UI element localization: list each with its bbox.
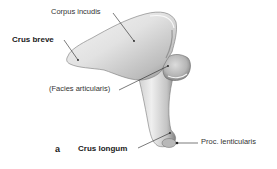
label-corpus-incudis: Corpus incudis [51,8,101,16]
label-facies-articularis: (Facies articularis) [49,85,110,93]
label-crus-longum: Crus longum [78,145,127,153]
label-crus-breve: Crus breve [12,36,54,44]
label-proc-lenticularis: Proc. lenticularis [201,138,256,146]
incus-diagram: Corpus incudis Crus breve (Facies articu… [0,0,277,169]
proc-lenticularis-shape [162,139,176,148]
panel-letter: a [55,145,60,154]
proc-lenticularis-point [176,142,179,145]
